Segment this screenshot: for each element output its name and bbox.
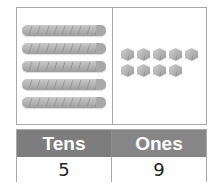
unit-cube-icon [185, 48, 198, 61]
tens-rod-icon [22, 61, 106, 72]
header-ones: Ones [111, 130, 206, 157]
unit-cube-icon [137, 64, 150, 77]
tens-rod-icon [22, 97, 106, 108]
ones-cubes [121, 48, 201, 80]
unit-cube-icon [153, 64, 166, 77]
value-tens: 5 [17, 157, 111, 182]
unit-cube-icon [169, 64, 182, 77]
column-divider [112, 8, 113, 124]
unit-cube-icon [137, 48, 150, 61]
unit-cube-icon [121, 64, 134, 77]
table-header-row: Tens Ones [17, 130, 206, 157]
unit-cube-icon [121, 48, 134, 61]
table-value-row: 5 9 [17, 157, 206, 182]
tens-rod-icon [22, 43, 106, 54]
unit-cube-icon [153, 48, 166, 61]
unit-cube-icon [169, 48, 182, 61]
tens-rod-icon [22, 25, 106, 36]
place-value-table: Tens Ones 5 9 [16, 129, 207, 182]
tens-rod-icon [22, 79, 106, 90]
value-ones: 9 [111, 157, 206, 182]
header-tens: Tens [17, 130, 111, 157]
tens-rods [22, 25, 106, 115]
